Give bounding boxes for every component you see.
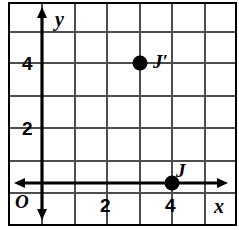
point-label-J-prime: J′ [153,52,168,71]
x-axis-label: x [214,196,224,216]
y-axis-label: y [55,9,64,29]
y-tick-label-2: 2 [22,119,33,138]
point-label-J: J [176,161,186,180]
origin-label: O [15,192,29,211]
x-tick-label-4: 4 [165,196,176,215]
point-J-prime [133,56,148,71]
y-axis [37,7,47,220]
grid-canvas [0,0,239,230]
x-tick-label-2: 2 [100,196,111,215]
coordinate-grid-figure: y x O 2 4 2 4 J′ J [0,0,239,230]
x-axis [14,178,228,188]
y-tick-label-4: 4 [22,54,33,73]
